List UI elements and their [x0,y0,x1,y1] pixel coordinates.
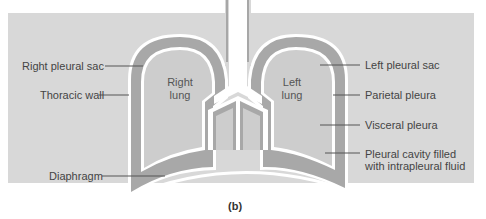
right-lung-label-line2: lung [160,89,200,102]
right-lung-label-line1: Right [160,76,200,89]
label-right-pleural-sac: Right pleural sac [22,60,104,72]
label-thoracic-wall: Thoracic wall [40,89,104,101]
label-left-pleural-sac: Left pleural sac [365,59,440,71]
left-lung-label-line2: lung [272,89,312,102]
label-pleural-cavity: Pleural cavity filled with intrapleural … [365,148,465,172]
label-parietal-pleura: Parietal pleura [365,89,436,101]
left-lung-label: Left lung [272,76,312,102]
figure-caption: (b) [228,200,242,212]
lung-pleura-diagram [0,0,486,219]
label-visceral-pleura: Visceral pleura [365,119,438,131]
label-diaphragm: Diaphragm [49,170,103,182]
left-lung-label-line1: Left [272,76,312,89]
label-pleural-cavity-line2: with intrapleural fluid [365,160,465,172]
right-lung-label: Right lung [160,76,200,102]
label-pleural-cavity-line1: Pleural cavity filled [365,148,465,160]
